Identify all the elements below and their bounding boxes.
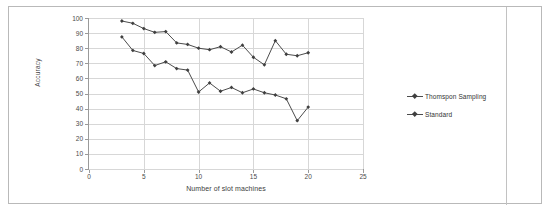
data-point-marker bbox=[120, 19, 124, 23]
y-tick-mark bbox=[85, 169, 88, 170]
y-tick-label: 90 bbox=[61, 30, 83, 37]
data-point-marker bbox=[273, 93, 277, 97]
y-tick-label: 0 bbox=[61, 166, 83, 173]
y-tick-mark bbox=[85, 18, 88, 19]
y-tick-mark bbox=[85, 94, 88, 95]
data-point-marker bbox=[219, 45, 223, 49]
data-point-marker bbox=[142, 27, 146, 31]
y-tick-mark bbox=[85, 154, 88, 155]
data-point-marker bbox=[131, 21, 135, 25]
legend-item[interactable]: Thomspon Sampling bbox=[407, 89, 507, 103]
gridline-vertical bbox=[363, 18, 364, 169]
y-tick-mark bbox=[85, 109, 88, 110]
data-point-marker bbox=[197, 46, 201, 50]
legend-item[interactable]: Standard bbox=[407, 107, 507, 121]
plot-area bbox=[89, 18, 363, 169]
x-axis-title: Number of slot machines bbox=[89, 185, 363, 192]
series-layer bbox=[89, 18, 363, 169]
legend-label: Thomspon Sampling bbox=[425, 93, 486, 100]
y-tick-label: 10 bbox=[61, 150, 83, 157]
data-point-marker bbox=[241, 91, 245, 95]
y-tick-label: 30 bbox=[61, 120, 83, 127]
legend-line-marker-icon bbox=[407, 93, 423, 100]
y-tick-mark bbox=[85, 48, 88, 49]
x-tick-label: 20 bbox=[298, 173, 318, 181]
y-tick-label: 100 bbox=[61, 15, 83, 22]
y-axis-title: Accuracy bbox=[34, 43, 41, 103]
series-line bbox=[122, 21, 308, 65]
y-tick-mark bbox=[85, 139, 88, 140]
x-tick-label: 15 bbox=[243, 173, 263, 181]
x-tick-label: 0 bbox=[79, 173, 99, 181]
gridline-horizontal bbox=[89, 169, 363, 170]
y-tick-label: 40 bbox=[61, 105, 83, 112]
data-point-marker bbox=[284, 97, 288, 101]
data-point-marker bbox=[230, 86, 234, 90]
y-tick-label: 60 bbox=[61, 75, 83, 82]
document-frame: 0102030405060708090100 0510152025 Accura… bbox=[8, 6, 542, 204]
data-point-marker bbox=[153, 30, 157, 34]
y-tick-label: 70 bbox=[61, 60, 83, 67]
y-tick-mark bbox=[85, 63, 88, 64]
data-point-marker bbox=[306, 51, 310, 55]
data-point-marker bbox=[252, 87, 256, 91]
y-tick-mark bbox=[85, 124, 88, 125]
chart-figure: 0102030405060708090100 0510152025 Accura… bbox=[9, 7, 543, 205]
legend-label: Standard bbox=[425, 111, 452, 118]
data-point-marker bbox=[186, 68, 190, 72]
y-tick-mark bbox=[85, 78, 88, 79]
legend-line-marker-icon bbox=[407, 111, 423, 118]
data-point-marker bbox=[186, 43, 190, 47]
y-tick-label: 80 bbox=[61, 45, 83, 52]
y-tick-mark bbox=[85, 33, 88, 34]
series-line bbox=[122, 37, 308, 121]
x-tick-label: 25 bbox=[353, 173, 373, 181]
x-tick-label: 5 bbox=[134, 173, 154, 181]
data-point-marker bbox=[208, 48, 212, 52]
x-tick-label: 10 bbox=[189, 173, 209, 181]
y-tick-label: 20 bbox=[61, 135, 83, 142]
data-point-marker bbox=[262, 91, 266, 95]
data-point-marker bbox=[295, 54, 299, 58]
series-1 bbox=[120, 19, 310, 67]
panel-divider bbox=[506, 7, 507, 205]
y-tick-label: 50 bbox=[61, 90, 83, 97]
chart-legend: Thomspon SamplingStandard bbox=[407, 89, 507, 125]
